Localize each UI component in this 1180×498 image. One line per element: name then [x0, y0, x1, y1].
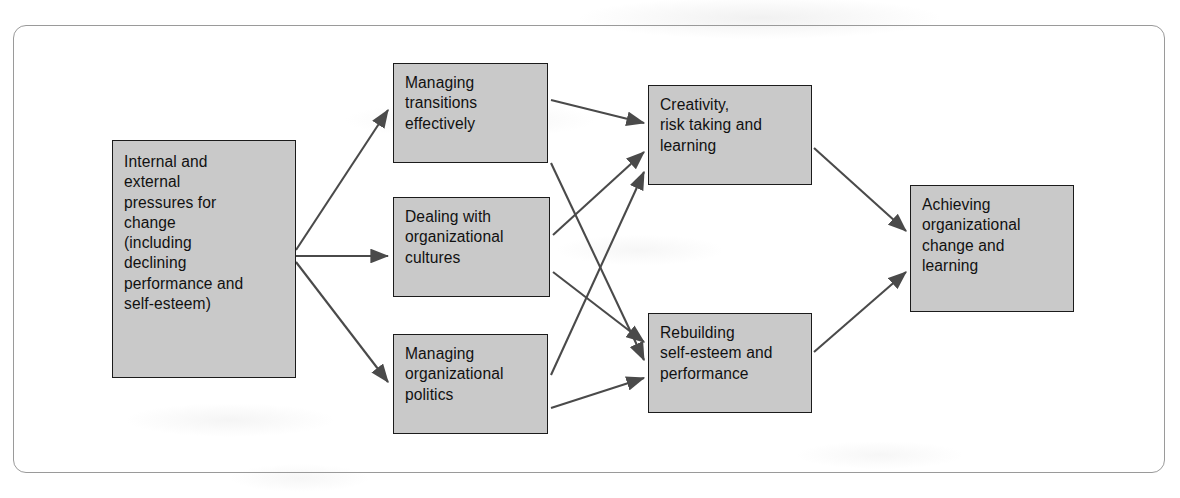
node-creativity: Creativity, risk taking and learning	[648, 85, 812, 185]
arrow-pressures-to-transitions	[296, 110, 388, 250]
arrow-creativity-to-achieving	[814, 148, 906, 231]
node-politics: Managing organizational politics	[393, 334, 548, 434]
arrow-politics-to-creativity	[551, 172, 644, 375]
node-pressures: Internal and external pressures for chan…	[112, 140, 296, 378]
node-transitions: Managing transitions effectively	[393, 63, 548, 163]
arrow-rebuilding-to-achieving	[814, 272, 906, 352]
arrow-politics-to-rebuilding	[551, 378, 644, 408]
diagram-canvas: Internal and external pressures for chan…	[0, 0, 1180, 498]
node-achieving: Achieving organizational change and lear…	[910, 185, 1074, 312]
arrow-transitions-to-creativity	[551, 100, 644, 123]
node-cultures: Dealing with organizational cultures	[393, 197, 550, 297]
arrow-cultures-to-rebuilding	[553, 272, 644, 342]
node-rebuilding: Rebuilding self-esteem and performance	[648, 313, 812, 413]
arrow-pressures-to-politics	[296, 262, 388, 382]
arrow-cultures-to-creativity	[553, 152, 644, 235]
